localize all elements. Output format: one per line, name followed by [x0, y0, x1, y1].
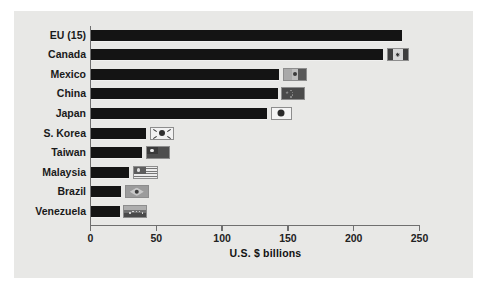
x-tick-label-50: 50 [150, 232, 162, 244]
bar-row: S. Korea [0, 128, 487, 148]
bar-row: Mexico [0, 69, 487, 89]
bar-row: Japan [0, 108, 487, 128]
bar-row: EU (15) [0, 30, 487, 50]
category-label-malaysia: Malaysia [0, 167, 86, 178]
x-tick-100 [221, 226, 222, 231]
bar-row: Venezuela [0, 206, 487, 226]
x-axis-title: U.S. $ billions [0, 247, 487, 259]
category-label-s-korea: S. Korea [0, 128, 86, 139]
x-tick-150 [287, 226, 288, 231]
bar-chart-plot: 050100150200250 EU (15)CanadaMexicoChina… [0, 0, 487, 290]
category-label-japan: Japan [0, 108, 86, 119]
bar [91, 108, 267, 119]
bar [91, 186, 121, 197]
south-korea-flag-icon [150, 127, 174, 140]
category-label-eu-15: EU (15) [0, 30, 86, 41]
bar [91, 128, 146, 139]
category-label-mexico: Mexico [0, 69, 86, 80]
bar-row: Malaysia [0, 167, 487, 187]
china-flag-icon [281, 87, 305, 100]
bar-row: China [0, 88, 487, 108]
japan-flag-icon [271, 107, 292, 120]
x-tick-250 [419, 226, 420, 231]
category-label-china: China [0, 88, 86, 99]
category-label-taiwan: Taiwan [0, 147, 86, 158]
bar [91, 30, 402, 41]
venezuela-flag-icon [123, 205, 147, 218]
x-tick-50 [156, 226, 157, 231]
mexico-flag-icon [283, 68, 307, 81]
x-tick-0 [90, 226, 91, 231]
bar [91, 167, 129, 178]
category-label-brazil: Brazil [0, 186, 86, 197]
x-tick-label-0: 0 [88, 232, 94, 244]
category-label-venezuela: Venezuela [0, 206, 86, 217]
category-label-canada: Canada [0, 49, 86, 60]
brazil-flag-icon [125, 185, 149, 198]
x-axis-title-text: U.S. $ billions [230, 247, 302, 259]
canada-flag-icon [387, 48, 409, 61]
x-tick-label-200: 200 [345, 232, 363, 244]
figure: 050100150200250 EU (15)CanadaMexicoChina… [0, 0, 487, 290]
taiwan-flag-icon [146, 146, 170, 159]
malaysia-flag-icon [133, 166, 158, 179]
x-tick-label-250: 250 [411, 232, 429, 244]
bar [91, 69, 279, 80]
bar [91, 49, 383, 60]
x-tick-label-150: 150 [279, 232, 297, 244]
bar [91, 206, 120, 217]
bar [91, 147, 142, 158]
bar-row: Taiwan [0, 147, 487, 167]
bar [91, 88, 278, 99]
x-tick-200 [353, 226, 354, 231]
bar-row: Brazil [0, 186, 487, 206]
x-tick-label-100: 100 [213, 232, 231, 244]
bar-row: Canada [0, 49, 487, 69]
